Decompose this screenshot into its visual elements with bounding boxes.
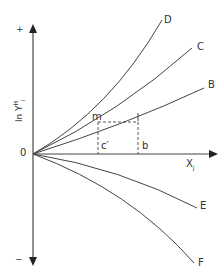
x-axis-label: Xj xyxy=(186,159,195,173)
x-axis-label-sub: j xyxy=(193,164,195,171)
diagram-canvas xyxy=(0,0,224,278)
y-plus-sign: + xyxy=(16,24,24,34)
y-axis-down-arrow-icon xyxy=(29,257,37,266)
y-axis-label-sub: i xyxy=(19,99,26,101)
point-label-b: b xyxy=(142,141,148,151)
curve-label-E: E xyxy=(200,201,206,211)
curve-label-C: C xyxy=(197,42,204,52)
curve-B xyxy=(33,88,204,154)
y-axis-label: ln YHi xyxy=(12,82,26,122)
curve-D xyxy=(33,20,162,154)
point-label-m: m xyxy=(92,112,102,122)
curve-label-D: D xyxy=(164,15,172,25)
y-axis-label-sup: H xyxy=(12,101,19,106)
origin-label: 0 xyxy=(20,148,26,158)
x-axis-arrow-icon xyxy=(209,150,218,158)
x-axis-label-text: X xyxy=(186,158,193,169)
curve-F xyxy=(33,154,194,263)
y-axis-up-arrow-icon xyxy=(29,24,37,33)
curve-C xyxy=(33,48,192,154)
curve-label-B: B xyxy=(208,80,215,90)
point-label-c-prime: c′ xyxy=(101,141,109,151)
curve-label-F: F xyxy=(198,258,204,268)
y-axis-label-text: ln Y xyxy=(14,105,24,122)
curve-E xyxy=(33,154,197,208)
y-minus-sign: − xyxy=(15,254,23,264)
